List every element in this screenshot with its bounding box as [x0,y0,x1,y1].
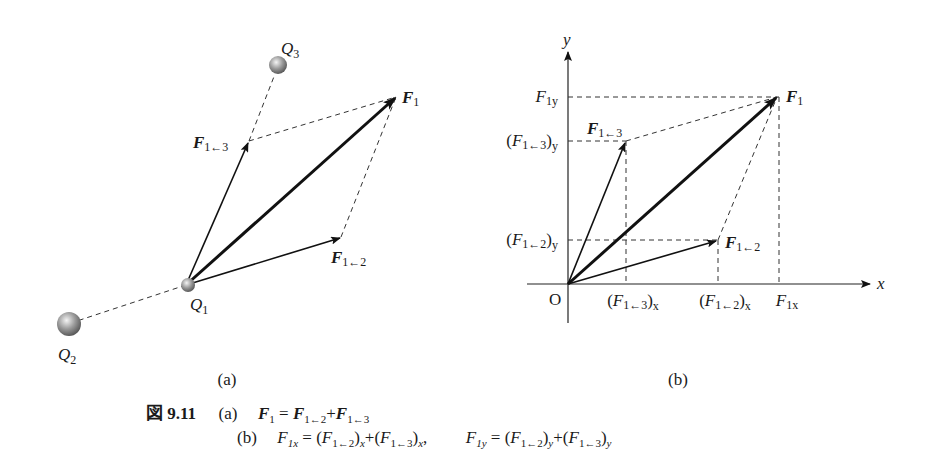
dashed-f13-f1-line [249,97,396,141]
origin-label: O [549,290,561,309]
x-axis-label: x [876,274,885,293]
charge-q3-ball [269,56,287,74]
vector-f1-3-arrow [186,143,248,285]
x-tick-f13x: (F1←3)x [607,291,659,313]
x-tick-f1x: F1x [775,291,798,312]
y-axis-label: y [561,30,571,49]
x-tick-f12x: (F1←2)x [699,291,751,313]
figure-number: 図 9.11 [146,404,196,423]
panel-a: Q1 Q2 Q3 F1 F1←3 F1←2 (a) [57,39,419,389]
dashed-q1-q2-line [80,285,186,320]
dashed-f12-f1-line [341,97,396,237]
y-tick-f13y: (F1←3)y [506,131,558,153]
vector-f1-2-arrow [186,238,340,285]
caption-tag-a: (a) [219,404,238,423]
panel-b-label: (b) [668,370,688,389]
label-q3: Q3 [281,39,299,61]
label-f1-2: F1←2 [330,248,366,269]
charge-q1-ball [181,278,195,292]
caption-line-b: (b) F1x = (F1←2)x+(F1←3)x, F1y = (F1←2)y… [237,428,611,449]
label-q1: Q1 [190,295,208,317]
label-f1-3: F1←3 [192,133,228,154]
dashed-f12-f1-line [718,97,777,240]
charge-q2-ball [57,312,81,336]
panel-b: y x O F1 F1←3 F1←2 F1y (F1←3)y (F1←2)y (… [506,30,885,389]
caption-tag-b: (b) [237,428,257,447]
caption-equation-a: F1 = F1←2+F1←3 [258,404,369,423]
caption-equation-b2: F1y = (F1←2)y+(F1←3)y [466,428,612,447]
figure-canvas: Q1 Q2 Q3 F1 F1←3 F1←2 (a) y x O F1 F1←3 … [0,0,925,475]
label-f1-3: F1←3 [586,119,622,140]
vector-f1-3-arrow [568,143,625,284]
caption-line-a: 図 9.11 (a) F1 = F1←2+F1←3 [146,399,369,425]
dashed-f13-q3-line [249,74,275,141]
y-tick-f1y: F1y [535,87,558,108]
caption-equation-b1: F1x = (F1←2)x+(F1←3)x, [277,428,427,447]
panel-a-label: (a) [218,370,237,389]
label-f1: F1 [785,87,803,108]
label-f1-2: F1←2 [724,233,760,254]
label-q2: Q2 [58,345,76,367]
label-f1: F1 [401,88,419,109]
y-tick-f12y: (F1←2)y [506,230,558,252]
